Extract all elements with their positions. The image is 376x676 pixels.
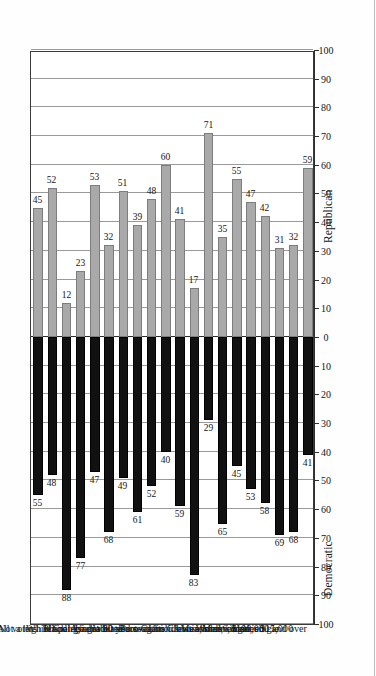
bar-row: 5545 bbox=[33, 52, 42, 624]
bar-republican[interactable] bbox=[48, 188, 57, 337]
bar-democratic[interactable] bbox=[261, 337, 270, 503]
axis-tick-label: 80 bbox=[321, 103, 331, 113]
axis-tick-label: 50 bbox=[321, 477, 331, 487]
bar-value-democratic: 45 bbox=[232, 470, 242, 479]
bar-democratic[interactable] bbox=[90, 337, 99, 472]
bar-democratic[interactable] bbox=[62, 337, 71, 590]
bar-value-republican: 12 bbox=[61, 290, 71, 299]
bar-row: 4753 bbox=[90, 52, 99, 624]
axis-tick bbox=[314, 481, 319, 482]
bar-republican[interactable] bbox=[261, 216, 270, 337]
bar-value-democratic: 55 bbox=[33, 499, 43, 508]
bar-row: 5248 bbox=[147, 52, 156, 624]
axis-tick-label: 0 bbox=[324, 333, 329, 343]
bar-value-republican: 35 bbox=[217, 224, 227, 233]
bar-value-democratic: 68 bbox=[104, 536, 114, 545]
bar-democratic[interactable] bbox=[161, 337, 170, 452]
axis-tick bbox=[314, 79, 319, 80]
bar-republican[interactable] bbox=[175, 219, 184, 337]
bar-row: 8317 bbox=[190, 52, 199, 624]
bar-republican[interactable] bbox=[33, 208, 42, 337]
bar-value-democratic: 58 bbox=[260, 507, 270, 516]
bar-value-republican: 59 bbox=[303, 155, 313, 164]
bar-value-democratic: 59 bbox=[175, 510, 185, 519]
bar-value-republican: 47 bbox=[246, 190, 256, 199]
bar-democratic[interactable] bbox=[246, 337, 255, 489]
page-edge-rule bbox=[374, 0, 375, 676]
bar-democratic[interactable] bbox=[33, 337, 42, 495]
bar-republican[interactable] bbox=[104, 245, 113, 337]
axis-tick bbox=[314, 538, 319, 539]
gridline-100 bbox=[31, 49, 313, 50]
bar-republican[interactable] bbox=[303, 168, 312, 337]
bar-value-republican: 32 bbox=[104, 233, 114, 242]
bar-democratic[interactable] bbox=[232, 337, 241, 466]
bar-republican[interactable] bbox=[246, 202, 255, 337]
axis-tick bbox=[314, 452, 319, 453]
axis-tick bbox=[314, 423, 319, 424]
bar-democratic[interactable] bbox=[48, 337, 57, 475]
axis-tick bbox=[314, 337, 319, 338]
axis-tick bbox=[314, 222, 319, 223]
bar-value-democratic: 61 bbox=[132, 516, 142, 525]
bar-republican[interactable] bbox=[161, 165, 170, 337]
bar-series-container: 5545485288127723475368324951613952484060… bbox=[31, 52, 313, 624]
axis-tick-label: 20 bbox=[321, 390, 331, 400]
bar-value-democratic: 49 bbox=[118, 481, 128, 490]
axis-tick bbox=[314, 251, 319, 252]
bar-republican[interactable] bbox=[289, 245, 298, 337]
bar-value-democratic: 77 bbox=[75, 562, 85, 571]
bar-value-democratic: 40 bbox=[161, 456, 171, 465]
axis-tick bbox=[314, 366, 319, 367]
chart-page: Democratic Republican 554548528812772347… bbox=[0, 0, 376, 676]
bar-value-democratic: 52 bbox=[146, 490, 156, 499]
axis-tick-label: 90 bbox=[321, 591, 331, 601]
bar-republican[interactable] bbox=[190, 288, 199, 337]
bar-republican[interactable] bbox=[232, 179, 241, 337]
bar-row: 4060 bbox=[161, 52, 170, 624]
bar-value-democratic: 41 bbox=[303, 458, 313, 467]
bar-row: 2971 bbox=[204, 52, 213, 624]
bar-democratic[interactable] bbox=[204, 337, 213, 420]
bar-value-republican: 53 bbox=[90, 173, 100, 182]
axis-tick bbox=[314, 165, 319, 166]
bar-row: 4555 bbox=[232, 52, 241, 624]
axis-tick-label: 30 bbox=[321, 247, 331, 257]
bar-democratic[interactable] bbox=[275, 337, 284, 535]
bar-republican[interactable] bbox=[76, 271, 85, 337]
axis-tick-label: 60 bbox=[321, 505, 331, 515]
axis-tick bbox=[314, 567, 319, 568]
bar-republican[interactable] bbox=[218, 237, 227, 337]
bar-democratic[interactable] bbox=[147, 337, 156, 486]
bar-democratic[interactable] bbox=[119, 337, 128, 478]
bar-republican[interactable] bbox=[90, 185, 99, 337]
bar-republican[interactable] bbox=[147, 199, 156, 337]
bar-value-republican: 17 bbox=[189, 276, 199, 285]
bar-democratic[interactable] bbox=[190, 337, 199, 575]
bar-democratic[interactable] bbox=[303, 337, 312, 455]
axis-tick bbox=[314, 194, 319, 195]
bar-republican[interactable] bbox=[204, 133, 213, 337]
bar-row: 4159 bbox=[303, 52, 312, 624]
bar-republican[interactable] bbox=[275, 248, 284, 337]
bar-value-republican: 32 bbox=[288, 233, 298, 242]
bar-value-democratic: 69 bbox=[274, 539, 284, 548]
axis-tick-label: 80 bbox=[321, 563, 331, 573]
bar-value-democratic: 47 bbox=[90, 476, 100, 485]
bar-value-republican: 39 bbox=[132, 213, 142, 222]
bar-democratic[interactable] bbox=[133, 337, 142, 512]
bar-democratic[interactable] bbox=[218, 337, 227, 524]
bar-republican[interactable] bbox=[133, 225, 142, 337]
bar-value-republican: 23 bbox=[75, 259, 85, 268]
bar-republican[interactable] bbox=[119, 191, 128, 337]
bar-row: 4852 bbox=[48, 52, 57, 624]
bar-democratic[interactable] bbox=[175, 337, 184, 506]
bar-row: 6535 bbox=[218, 52, 227, 624]
bar-republican[interactable] bbox=[62, 303, 71, 337]
bar-value-republican: 41 bbox=[175, 207, 185, 216]
bar-democratic[interactable] bbox=[76, 337, 85, 558]
bar-value-democratic: 29 bbox=[203, 424, 213, 433]
bar-democratic[interactable] bbox=[104, 337, 113, 532]
axis-tick-label: 100 bbox=[319, 620, 334, 630]
bar-democratic[interactable] bbox=[289, 337, 298, 532]
